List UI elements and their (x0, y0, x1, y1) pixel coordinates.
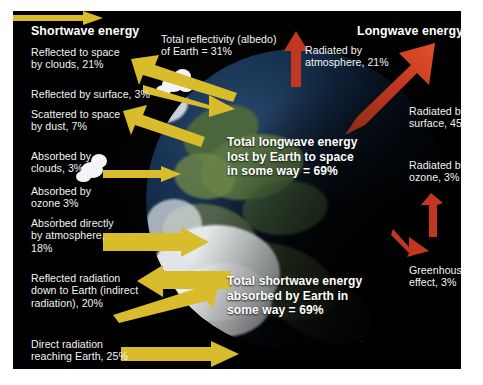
diagram-panel: Shortwave energy Longwave energy Total r… (13, 11, 461, 369)
energy-budget-figure: Shortwave energy Longwave energy Total r… (0, 0, 483, 385)
sw7-line2: reaching Earth, 25% (31, 350, 171, 362)
label-total-reflectivity-albedo: Total reflectivity (albedo) of Earth = 3… (161, 33, 301, 58)
label-absorbed-by-clouds: Absorbed by clouds, 3% (31, 150, 163, 175)
note-sw-line1: Total shortwave energy (227, 274, 403, 289)
lw2-line1: Radiated by (409, 159, 461, 171)
sw2-line2: by dust, 7% (31, 120, 163, 132)
arrow-greenhouse-effect (391, 227, 435, 269)
note-sw-line2: absorbed by Earth in (227, 289, 403, 304)
label-radiated-by-surface: Radiated by surface, 45% (409, 105, 461, 130)
lw0-line1: Radiated by (305, 44, 417, 56)
albedo-line-1: Total reflectivity (albedo) (161, 33, 301, 45)
sw1-line1: Reflected by surface, 3% (31, 88, 181, 100)
header-shortwave-energy: Shortwave energy (31, 24, 139, 38)
sw6-line3: radiation), 20% (31, 297, 177, 309)
sw2-line1: Scattered to space (31, 108, 163, 120)
sw5-line3: 18% (31, 242, 163, 254)
sw3-line1: Absorbed by (31, 150, 163, 162)
sw4-line1: Absorbed by (31, 185, 163, 197)
sw6-line2: down to Earth (indirect (31, 284, 177, 296)
label-reflected-to-space-by-clouds: Reflected to space by clouds, 21% (31, 46, 163, 71)
note-lw-line3: in some way = 69% (227, 164, 403, 179)
lw3-line2: effect, 3% (409, 276, 461, 288)
label-greenhouse-effect: Greenhouse effect, 3% (409, 264, 461, 289)
sw5-line1: Absorbed directly (31, 217, 163, 229)
label-reflected-radiation-indirect: Reflected radiation down to Earth (indir… (31, 272, 177, 309)
albedo-line-2: of Earth = 31% (161, 45, 301, 57)
lw0-line2: atmosphere, 21% (305, 56, 417, 68)
lw1-line2: surface, 45% (409, 117, 461, 129)
label-reflected-by-surface: Reflected by surface, 3% (31, 88, 181, 100)
sw7-line1: Direct radiation (31, 338, 171, 350)
sw0-line2: by clouds, 21% (31, 58, 163, 70)
label-direct-radiation-reaching-earth: Direct radiation reaching Earth, 25% (31, 338, 171, 363)
lw1-line1: Radiated by (409, 105, 461, 117)
note-lw-line2: lost by Earth to space (227, 150, 403, 165)
note-lw-line1: Total longwave energy (227, 135, 403, 150)
note-total-shortwave-absorbed: Total shortwave energy absorbed by Earth… (227, 274, 403, 318)
note-sw-line3: some way = 69% (227, 303, 403, 318)
sw3-line2: clouds, 3% (31, 162, 163, 174)
label-radiated-by-ozone: Radiated by ozone, 3% (409, 159, 461, 184)
label-absorbed-by-ozone: Absorbed by ozone 3% (31, 185, 163, 210)
lw3-line1: Greenhouse (409, 264, 461, 276)
label-radiated-by-atmosphere: Radiated by atmosphere, 21% (305, 44, 417, 69)
sw6-line1: Reflected radiation (31, 272, 177, 284)
header-longwave-energy: Longwave energy (357, 24, 461, 38)
label-absorbed-directly-by-atmosphere: Absorbed directly by atmosphere, 18% (31, 217, 163, 254)
note-total-longwave-lost: Total longwave energy lost by Earth to s… (227, 135, 403, 179)
sw5-line2: by atmosphere, (31, 229, 163, 241)
sw0-line1: Reflected to space (31, 46, 163, 58)
lw2-line2: ozone, 3% (409, 171, 461, 183)
sw4-line2: ozone 3% (31, 197, 163, 209)
label-scattered-to-space-by-dust: Scattered to space by dust, 7% (31, 108, 163, 133)
